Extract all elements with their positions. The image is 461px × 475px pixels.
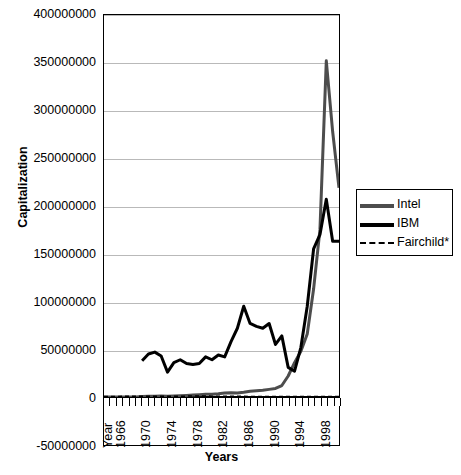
y-axis-tick-labels: 4000000003500000003000000002500000002000… bbox=[0, 0, 96, 475]
y-axis-tick-label: 150000000 bbox=[0, 248, 96, 260]
plot-area bbox=[103, 14, 340, 398]
x-axis-tick bbox=[321, 398, 322, 406]
x-axis-tick bbox=[295, 398, 296, 406]
y-axis-tick-label: 100000000 bbox=[0, 296, 96, 308]
y-axis-tick-label: 350000000 bbox=[0, 56, 96, 68]
x-axis-title: Years bbox=[103, 450, 340, 464]
legend-item-fairchild: Fairchild* bbox=[360, 232, 449, 251]
y-axis-tick-label: -50000000 bbox=[0, 440, 96, 452]
x-axis-tick bbox=[103, 398, 104, 406]
x-axis-tick-labels: Year196619701974197819821986199019941998 bbox=[103, 406, 340, 446]
legend-label-fairchild: Fairchild* bbox=[397, 235, 449, 249]
x-axis-tick bbox=[340, 398, 341, 406]
x-axis-tick bbox=[231, 398, 232, 406]
x-axis-tick bbox=[199, 398, 200, 406]
y-axis-tick-label: 0 bbox=[0, 392, 96, 404]
x-axis-tick-label: 1974 bbox=[166, 420, 178, 448]
x-axis-tick bbox=[148, 398, 149, 406]
y-axis-tick-label: 250000000 bbox=[0, 152, 96, 164]
series-line-ibm bbox=[142, 199, 339, 372]
y-axis-tick-label: 300000000 bbox=[0, 104, 96, 116]
x-axis-tick bbox=[205, 398, 206, 406]
x-axis-tick bbox=[116, 398, 117, 406]
legend-swatch-ibm bbox=[360, 217, 394, 228]
x-axis-tick bbox=[218, 398, 219, 406]
x-axis-tick bbox=[212, 398, 213, 406]
series-line-intel bbox=[104, 61, 339, 397]
x-axis-tick-label: 1978 bbox=[192, 420, 204, 448]
x-axis-tick bbox=[122, 398, 123, 406]
y-axis-tick-label: 200000000 bbox=[0, 200, 96, 212]
x-axis-tick bbox=[314, 398, 315, 406]
x-axis-tick-label: 1998 bbox=[320, 420, 332, 448]
x-axis-tick bbox=[282, 398, 283, 406]
legend-swatch-intel bbox=[360, 198, 394, 209]
x-axis-tick bbox=[238, 398, 239, 406]
x-axis-tick-label: 1982 bbox=[217, 420, 229, 448]
x-axis-tick bbox=[302, 398, 303, 406]
x-axis-tick bbox=[193, 398, 194, 406]
series-line-fairchild bbox=[104, 396, 339, 397]
x-axis-tick bbox=[334, 398, 335, 406]
x-axis-tick bbox=[289, 398, 290, 406]
x-axis-tick bbox=[250, 398, 251, 406]
x-axis-tick bbox=[129, 398, 130, 406]
x-axis-tick bbox=[186, 398, 187, 406]
x-axis-tick bbox=[167, 398, 168, 406]
x-axis-tick-label: Year bbox=[102, 423, 114, 448]
x-axis-tick-label: 1994 bbox=[294, 420, 306, 448]
x-axis-tick bbox=[244, 398, 245, 406]
x-axis-tick bbox=[109, 398, 110, 406]
x-axis-tick bbox=[141, 398, 142, 406]
x-axis-tick bbox=[135, 398, 136, 406]
x-axis-tick bbox=[257, 398, 258, 406]
x-axis-tick bbox=[173, 398, 174, 406]
x-axis-tick bbox=[308, 398, 309, 406]
x-axis-tick bbox=[270, 398, 271, 406]
legend-swatch-fairchild bbox=[360, 236, 394, 247]
capitalization-line-chart: Capitalization 4000000003500000003000000… bbox=[0, 0, 461, 475]
x-axis-tick-label: 1990 bbox=[269, 420, 281, 448]
y-axis-tick-label: 50000000 bbox=[0, 344, 96, 356]
x-axis-ticks bbox=[103, 398, 340, 406]
x-axis-tick bbox=[276, 398, 277, 406]
x-axis-tick-label: 1970 bbox=[140, 420, 152, 448]
x-axis-tick bbox=[154, 398, 155, 406]
x-axis-tick bbox=[161, 398, 162, 406]
x-axis-tick bbox=[180, 398, 181, 406]
legend-label-intel: Intel bbox=[397, 197, 421, 211]
y-axis-tick-label: 400000000 bbox=[0, 8, 96, 20]
legend-item-ibm: IBM bbox=[360, 213, 449, 232]
x-axis-tick-label: 1966 bbox=[115, 420, 127, 448]
legend-label-ibm: IBM bbox=[397, 216, 419, 230]
legend: Intel IBM Fairchild* bbox=[356, 189, 453, 256]
legend-item-intel: Intel bbox=[360, 194, 449, 213]
series-paths bbox=[104, 15, 339, 397]
x-axis-tick bbox=[263, 398, 264, 406]
x-axis-tick-label: 1986 bbox=[243, 420, 255, 448]
x-axis-tick bbox=[225, 398, 226, 406]
x-axis-tick bbox=[327, 398, 328, 406]
